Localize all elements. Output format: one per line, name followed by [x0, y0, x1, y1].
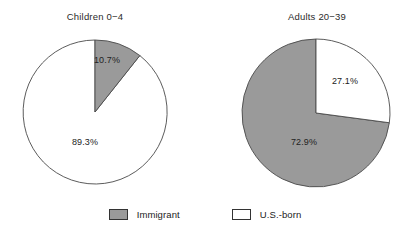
slice-label-left-usborn: 89.3%: [58, 137, 112, 147]
legend-label-immigrant: Immigrant: [137, 209, 180, 220]
chart-title-children: Children 0−4: [0, 11, 190, 22]
pie-charts-svg: [0, 0, 410, 243]
chart-title-adults: Adults 20−39: [222, 11, 410, 22]
legend-swatch-usborn: [232, 209, 251, 220]
chart-legend: Immigrant U.S.-born: [0, 209, 410, 220]
legend-swatch-immigrant: [109, 209, 128, 220]
legend-label-usborn: U.S.-born: [260, 209, 302, 220]
legend-entry-usborn[interactable]: U.S.-born: [232, 209, 302, 220]
slice-label-right-usborn: 27.1%: [320, 76, 370, 86]
pie-right-adults: [242, 39, 390, 187]
pie-chart-figure: Children 0−4 Adults 20−39 10.7% 89.3% 27…: [0, 0, 410, 243]
legend-entry-immigrant[interactable]: Immigrant: [109, 209, 180, 220]
slice-label-left-immigrant: 10.7%: [82, 55, 132, 65]
slice-label-right-immigrant: 72.9%: [278, 137, 330, 147]
